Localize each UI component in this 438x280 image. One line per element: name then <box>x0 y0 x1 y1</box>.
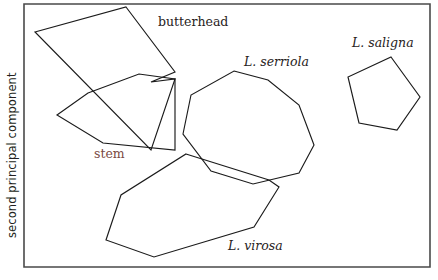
plot-canvas: butterhead stem L. serriola L. saligna L… <box>0 0 438 280</box>
hull-outline <box>35 7 175 150</box>
hull-group-butterhead <box>35 7 175 150</box>
hull-group-l-serriola <box>183 71 314 184</box>
group-label-l-virosa: L. virosa <box>227 238 283 253</box>
y-axis-label: second principal component <box>5 72 19 238</box>
hull-group-stem <box>57 74 175 150</box>
hull-outline <box>183 71 314 184</box>
group-label-l-serriola: L. serriola <box>243 54 309 69</box>
hull-outline <box>57 74 175 150</box>
group-label-butterhead: butterhead <box>158 14 228 29</box>
group-label-l-saligna: L. saligna <box>351 35 414 50</box>
group-label-stem: stem <box>94 146 125 161</box>
pca-ordination-figure: butterhead stem L. serriola L. saligna L… <box>0 0 438 280</box>
hull-group-l-saligna <box>348 57 420 130</box>
hull-outline <box>348 57 420 130</box>
